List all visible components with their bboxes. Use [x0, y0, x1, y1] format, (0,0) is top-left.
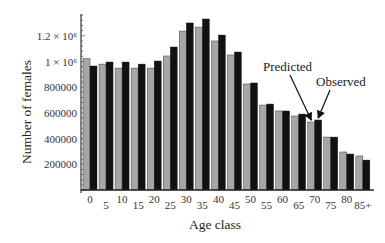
y-tick-label: 600000 — [44, 107, 78, 119]
x-tick-label: 0 — [87, 193, 93, 205]
x-tick-label: 20 — [149, 193, 161, 205]
y-tick-label: 200000 — [44, 158, 78, 170]
bar-chart: 2000004000006000008000001 × 10⁶1.2 × 10⁶… — [0, 0, 385, 243]
bar-predicted-65 — [292, 116, 299, 190]
bar-observed-40 — [218, 35, 225, 190]
bar-observed-80 — [347, 154, 354, 190]
bar-observed-55 — [267, 104, 274, 190]
bar-predicted-35 — [195, 27, 202, 190]
bar-observed-25 — [170, 47, 177, 190]
x-tick-label: 80 — [341, 193, 353, 205]
bar-observed-50 — [251, 83, 258, 190]
bar-observed-85+ — [363, 160, 370, 190]
bar-predicted-75 — [324, 137, 331, 190]
bar-observed-30 — [186, 23, 193, 190]
bar-predicted-5 — [99, 64, 106, 190]
bar-predicted-45 — [227, 55, 234, 190]
annotation-observed: Observed — [316, 74, 366, 89]
y-tick-label: 400000 — [44, 133, 78, 145]
x-tick-label: 85+ — [354, 199, 371, 211]
bar-observed-45 — [234, 52, 241, 190]
x-tick-label: 65 — [293, 199, 305, 211]
bar-predicted-15 — [131, 68, 138, 190]
bar-predicted-40 — [211, 41, 218, 190]
x-tick-label: 40 — [213, 193, 225, 205]
y-tick-label: 1.2 × 10⁶ — [37, 30, 77, 42]
y-tick-label: 1 × 10⁶ — [45, 56, 77, 68]
x-tick-label: 70 — [309, 193, 321, 205]
bar-observed-60 — [283, 111, 290, 190]
x-tick-label: 55 — [261, 199, 273, 211]
bar-predicted-85+ — [356, 156, 363, 190]
bars — [83, 19, 370, 190]
bar-observed-70 — [315, 120, 322, 190]
bar-predicted-50 — [244, 84, 251, 190]
y-axis: 2000004000006000008000001 × 10⁶1.2 × 10⁶ — [37, 14, 85, 193]
bar-predicted-60 — [276, 111, 283, 190]
bar-observed-65 — [299, 114, 306, 190]
bar-predicted-30 — [179, 31, 186, 190]
x-tick-label: 30 — [181, 193, 193, 205]
y-tick-label: 800000 — [44, 81, 78, 93]
bar-observed-15 — [138, 64, 145, 190]
annotation-predicted: Predicted — [263, 59, 313, 74]
x-tick-label: 60 — [277, 193, 289, 205]
bar-predicted-55 — [260, 105, 267, 190]
predicted-arrow — [290, 75, 311, 120]
bar-predicted-20 — [147, 68, 154, 190]
bar-observed-35 — [202, 19, 209, 190]
bar-predicted-70 — [308, 122, 315, 190]
observed-arrow — [318, 90, 330, 118]
x-axis: 0510152025303540455055606570758085+ — [81, 190, 374, 211]
bar-observed-10 — [122, 62, 129, 190]
bar-observed-0 — [90, 66, 97, 190]
bar-predicted-25 — [163, 56, 170, 190]
x-tick-label: 75 — [325, 199, 337, 211]
x-tick-label: 15 — [133, 199, 145, 211]
y-axis-title: Number of females — [19, 60, 34, 164]
bar-predicted-10 — [115, 68, 122, 190]
x-tick-label: 45 — [229, 199, 241, 211]
x-tick-label: 10 — [117, 193, 129, 205]
bar-observed-5 — [106, 62, 113, 190]
x-tick-label: 25 — [165, 199, 177, 211]
x-tick-label: 50 — [245, 193, 257, 205]
bar-observed-75 — [331, 137, 338, 190]
bar-predicted-0 — [83, 59, 90, 190]
bar-predicted-80 — [340, 152, 347, 190]
x-tick-label: 5 — [103, 199, 109, 211]
x-tick-label: 35 — [197, 199, 209, 211]
bar-observed-20 — [154, 61, 161, 190]
x-axis-title: Age class — [189, 217, 241, 232]
